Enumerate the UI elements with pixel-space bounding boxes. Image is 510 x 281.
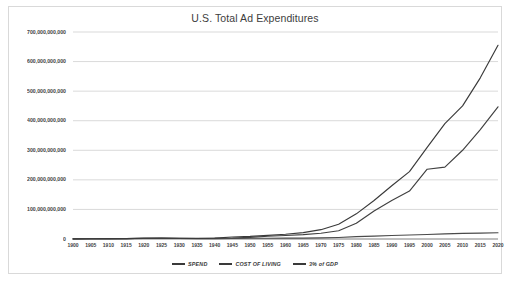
legend-line-icon (293, 263, 306, 264)
y-axis-tick-label: 300,000,000,000 (9, 147, 66, 153)
y-axis-tick-label: 600,000,000,000 (9, 58, 66, 64)
y-axis-tick-label: 400,000,000,000 (9, 117, 66, 123)
legend-item-3pct-gdp: 3% of GDP (293, 261, 338, 267)
plot-area: 700,000,000,000600,000,000,000500,000,00… (9, 7, 503, 275)
series-line-spend (73, 107, 498, 239)
y-axis-tick-label: 500,000,000,000 (9, 87, 66, 93)
y-axis-tick-label: 200,000,000,000 (9, 176, 66, 182)
legend-line-icon (172, 263, 185, 264)
legend-label: COST OF LIVING (235, 261, 281, 267)
legend-item-spend: SPEND (172, 261, 207, 267)
chart-plot-svg (9, 7, 503, 275)
legend-line-icon (219, 263, 232, 264)
series-line-3-of-gdp (73, 45, 498, 239)
y-axis-tick-label: 100,000,000,000 (9, 206, 66, 212)
legend-item-cost-of-living: COST OF LIVING (219, 261, 281, 267)
chart-legend: SPEND COST OF LIVING 3% of GDP (9, 261, 501, 267)
legend-label: SPEND (188, 261, 207, 267)
x-axis-tick-label: 2020 (487, 242, 509, 248)
legend-label: 3% of GDP (309, 261, 338, 267)
y-axis-tick-label: 700,000,000,000 (9, 28, 66, 34)
chart-container: U.S. Total Ad Expenditures 700,000,000,0… (8, 6, 502, 274)
y-axis-tick-label: 0 (9, 235, 66, 241)
